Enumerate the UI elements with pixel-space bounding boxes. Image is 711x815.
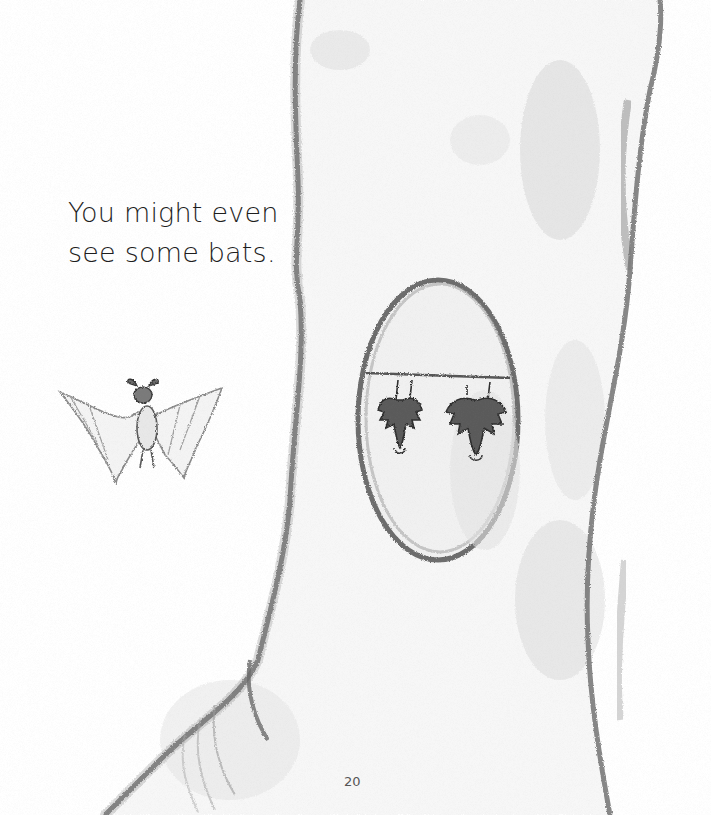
story-text: You might even see some bats. — [68, 193, 279, 273]
page-number: 20 — [344, 774, 361, 789]
book-page: You might even see some bats. 20 — [0, 0, 711, 815]
pencil-illustration — [0, 0, 711, 815]
story-text-line-1: You might even — [68, 193, 279, 233]
story-text-line-2: see some bats. — [68, 233, 279, 273]
